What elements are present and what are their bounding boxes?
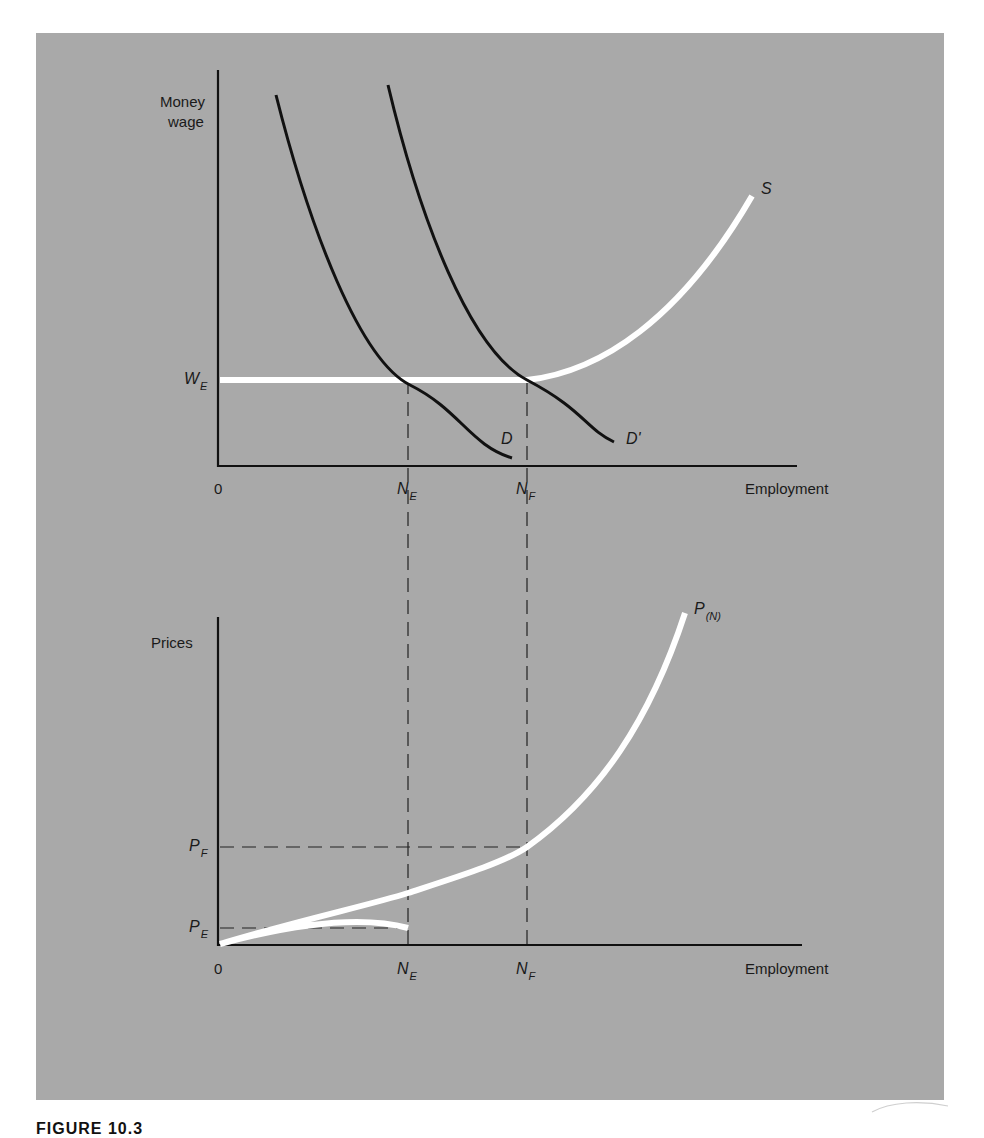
bottom-ylabel: Prices [151, 634, 193, 651]
top-ylabel-line2: wage [168, 113, 204, 130]
bottom-ne-label: NE [397, 960, 417, 979]
pf-label: PF [189, 837, 207, 856]
top-chart [217, 70, 797, 945]
top-xlabel: Employment [745, 480, 828, 497]
demand-curve-d [276, 95, 512, 458]
supply-curve-s [220, 196, 752, 380]
d-curve-label: D [501, 430, 513, 447]
bottom-xlabel: Employment [745, 960, 828, 977]
page-curl-mark [870, 1100, 950, 1114]
d-prime-curve-label: D' [626, 430, 641, 447]
s-curve-label: S [761, 180, 772, 197]
bottom-nf-label: NF [516, 960, 535, 979]
top-ylabel-line1: Money [160, 93, 205, 110]
top-origin: 0 [214, 480, 222, 497]
bottom-origin: 0 [214, 960, 222, 977]
we-label: WE [184, 370, 207, 389]
bottom-chart [217, 613, 802, 946]
figure-caption: FIGURE 10.3 [36, 1120, 143, 1138]
pe-label: PE [189, 918, 208, 937]
top-nf-label: NF [516, 480, 535, 499]
demand-curve-d-prime [388, 85, 614, 442]
price-curve-pn [220, 613, 685, 944]
pn-curve-label: P(N) [694, 600, 721, 619]
top-ne-label: NE [397, 480, 417, 499]
